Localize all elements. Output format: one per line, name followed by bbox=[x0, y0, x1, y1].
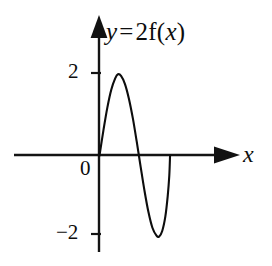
x-axis-name-label: x bbox=[243, 142, 254, 166]
x-axis-arrow-icon bbox=[214, 147, 240, 164]
origin-label: 0 bbox=[80, 158, 91, 179]
x-axis bbox=[14, 147, 240, 164]
equation-label: y=2f(x) bbox=[106, 19, 185, 44]
y-axis-arrow-icon bbox=[91, 15, 108, 38]
equation-coefficient: 2 bbox=[136, 18, 149, 45]
y-tick-label-negative-2: −2 bbox=[56, 222, 78, 243]
y-axis bbox=[91, 15, 108, 252]
equation-close-paren: ) bbox=[177, 18, 186, 45]
equation-lhs: y bbox=[106, 18, 117, 45]
graph-figure: y=2f(x) 2 0 −2 x bbox=[0, 0, 272, 266]
equation-argument: x bbox=[165, 18, 176, 45]
y-tick-label-2: 2 bbox=[68, 61, 79, 82]
equation-relation: = bbox=[117, 18, 135, 45]
equation-function-name: f bbox=[148, 18, 157, 45]
